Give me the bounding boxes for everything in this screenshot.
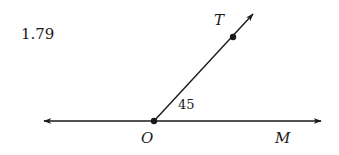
angle-measure-label: 45 xyxy=(178,98,195,111)
point-t-dot xyxy=(230,34,236,40)
point-o-dot xyxy=(151,118,157,124)
point-m-label: M xyxy=(275,131,290,146)
ray-ot xyxy=(154,14,253,121)
problem-number: 1.79 xyxy=(21,27,54,42)
geometry-diagram: 1.79 T O M 45 xyxy=(0,0,339,155)
point-o-label: O xyxy=(141,131,153,146)
point-t-label: T xyxy=(214,13,224,28)
